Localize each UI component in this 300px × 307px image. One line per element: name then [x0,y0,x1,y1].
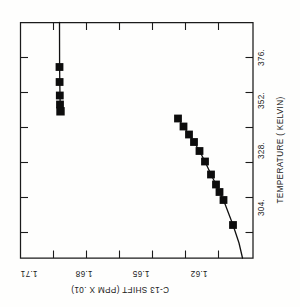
data-point-marker [229,221,237,229]
temperature-tick-label: 352. [257,92,266,109]
data-point-marker [56,63,64,71]
data-point-marker [56,92,64,100]
series-lower-branch [174,115,242,258]
shift-tick-label: 1.62 [190,269,207,278]
shift-tick-labels: 1.71 1.68 1.65 1.62 [20,269,207,278]
temperature-tick-label: 304. [257,199,266,216]
plot-frame [21,23,254,259]
left-axis-ticks [21,58,29,233]
scatter-plot: 376. 352. 328. 304. TEMPERATURE ( KELVIN… [0,0,300,307]
temperature-axis-ticks [246,58,254,233]
data-point-marker [196,147,204,155]
temperature-tick-label: 328. [257,142,266,159]
data-point-marker [190,138,198,146]
temperature-tick-labels: 376. 352. 328. 304. [257,49,266,216]
data-point-marker [174,115,182,123]
figure-container: 376. 352. 328. 304. TEMPERATURE ( KELVIN… [0,0,300,307]
shift-axis-ticks [54,251,219,259]
data-point-marker [201,158,209,166]
data-point-marker [216,188,224,196]
temperature-axis-title: TEMPERATURE ( KELVIN) [276,96,285,203]
data-point-marker [56,78,64,86]
shift-tick-label: 1.71 [20,269,37,278]
shift-axis-title: C-13 SHIFT (PPM X .01) [71,285,169,294]
data-point-marker [56,107,64,115]
data-point-marker [212,181,220,189]
shift-tick-label: 1.65 [132,269,149,278]
data-point-marker [220,196,228,204]
data-point-marker [180,123,188,131]
data-point-marker [185,131,193,139]
top-axis-ticks [54,23,219,31]
data-point-marker [207,171,215,179]
temperature-tick-label: 376. [257,49,266,66]
series-upper-branch [56,23,65,116]
shift-tick-label: 1.68 [75,269,92,278]
